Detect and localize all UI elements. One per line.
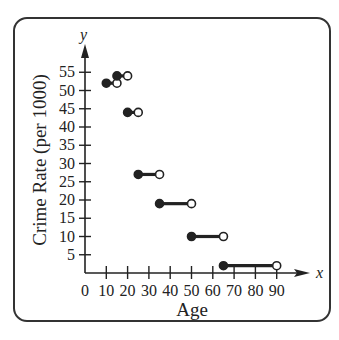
step-segment xyxy=(124,108,143,116)
closed-dot-icon xyxy=(156,200,164,208)
y-axis-arrow-icon xyxy=(81,44,89,58)
y-axis-title: Crime Rate (per 1000) xyxy=(29,74,51,245)
x-tick-label: 10 xyxy=(98,282,114,299)
x-tick-label: 40 xyxy=(162,282,178,299)
x-tick-label: 20 xyxy=(120,282,136,299)
x-tick-label: 70 xyxy=(226,282,242,299)
closed-dot-icon xyxy=(188,233,196,241)
step-chart: 510152025303540455055 010203040506070809… xyxy=(0,0,339,340)
y-tick-label: 35 xyxy=(59,136,75,153)
x-tick-label: 0 xyxy=(81,282,89,299)
y-tick-label: 25 xyxy=(59,173,75,190)
x-axis-ticks: 0102030405060708090 xyxy=(81,266,285,299)
x-axis-title: Age xyxy=(176,299,208,320)
y-tick-label: 30 xyxy=(59,155,75,172)
y-axis-ticks: 510152025303540455055 xyxy=(59,63,91,263)
closed-dot-icon xyxy=(134,170,142,178)
step-segment xyxy=(113,72,132,80)
y-tick-label: 50 xyxy=(59,82,75,99)
y-tick-label: 40 xyxy=(59,118,75,135)
y-tick-label: 5 xyxy=(67,246,75,263)
step-segment xyxy=(188,233,228,241)
open-dot-icon xyxy=(156,170,164,178)
step-segment xyxy=(219,262,280,270)
closed-dot-icon xyxy=(124,108,132,116)
open-dot-icon xyxy=(134,108,142,116)
closed-dot-icon xyxy=(102,79,110,87)
x-tick-label: 30 xyxy=(141,282,157,299)
step-segment xyxy=(134,170,163,178)
closed-dot-icon xyxy=(219,262,227,270)
x-tick-label: 60 xyxy=(205,282,221,299)
y-tick-label: 55 xyxy=(59,63,75,80)
x-tick-label: 90 xyxy=(269,282,285,299)
data-segments xyxy=(102,72,280,270)
step-segment xyxy=(156,200,196,208)
y-tick-label: 15 xyxy=(59,209,75,226)
y-axis-letter: y xyxy=(78,26,88,44)
x-tick-label: 80 xyxy=(247,282,263,299)
y-tick-label: 20 xyxy=(59,191,75,208)
closed-dot-icon xyxy=(113,72,121,80)
open-dot-icon xyxy=(124,72,132,80)
open-dot-icon xyxy=(219,233,227,241)
open-dot-icon xyxy=(273,262,281,270)
x-tick-label: 50 xyxy=(184,282,200,299)
y-tick-label: 10 xyxy=(59,228,75,245)
open-dot-icon xyxy=(188,200,196,208)
y-tick-label: 45 xyxy=(59,100,75,117)
x-axis-letter: x xyxy=(315,264,323,281)
